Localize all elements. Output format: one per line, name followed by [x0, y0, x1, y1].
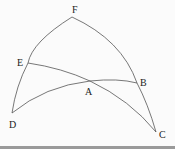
point-label-c: C [159, 130, 166, 140]
bottom-border [0, 146, 175, 149]
point-label-a: A [85, 87, 92, 97]
diagram-canvas: F E A B D C [0, 0, 175, 149]
point-label-f: F [72, 5, 78, 15]
point-label-d: D [9, 120, 16, 130]
diagram-arcs [0, 0, 175, 149]
arc-e-a-c [28, 63, 156, 132]
point-label-b: B [140, 78, 147, 88]
arc-d-a-b [12, 80, 137, 113]
arc-f-b-c [72, 17, 156, 132]
point-label-e: E [17, 58, 23, 68]
